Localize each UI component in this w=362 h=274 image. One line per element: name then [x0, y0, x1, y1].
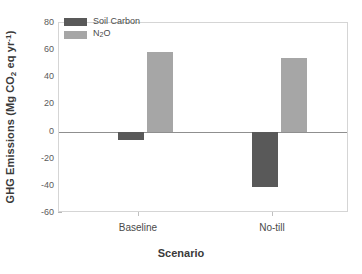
- bar-n2o-baseline: [147, 52, 173, 132]
- legend-swatch-soil-carbon: [64, 18, 87, 26]
- bar-soil-carbon-baseline: [118, 132, 144, 140]
- x-axis-tick-mark: [138, 212, 139, 216]
- y-axis-tick-mark: [58, 212, 62, 213]
- x-axis-tick-label-no-till: No-till: [259, 222, 285, 233]
- zero-baseline: [59, 132, 347, 133]
- y-axis-tick-label: -20: [26, 153, 54, 163]
- y-axis-tick-label: 40: [26, 71, 54, 81]
- y-axis-tick-label: 60: [26, 44, 54, 54]
- x-axis-tick-label-baseline: Baseline: [119, 222, 157, 233]
- y-axis-tick-label: 20: [26, 98, 54, 108]
- legend-label-soil-carbon: Soil Carbon: [93, 17, 140, 26]
- bar-soil-carbon-no-till: [252, 132, 278, 187]
- y-axis-tick-label: 80: [26, 17, 54, 27]
- y-axis-title-text: GHG Emissions (Mg CO: [4, 76, 16, 203]
- y-axis-tick-labels: 806040200-20-40-60: [24, 0, 54, 274]
- legend-item-soil-carbon: Soil Carbon: [64, 17, 140, 26]
- y-axis-tick-label: -40: [26, 180, 54, 190]
- x-axis-tick-mark: [272, 212, 273, 216]
- y-axis-title: GHG Emissions (Mg CO2 eq yr-1): [0, 22, 22, 212]
- y-axis-tick-label: -60: [26, 207, 54, 217]
- y-axis-title-superscript: -1: [4, 34, 13, 41]
- y-axis-title-post: ): [4, 31, 16, 35]
- y-axis-tick-label: 0: [26, 126, 54, 136]
- x-axis-title: Scenario: [0, 247, 362, 259]
- legend-swatch-n2o: [64, 31, 87, 39]
- chart-figure: GHG Emissions (Mg CO2 eq yr-1) 806040200…: [0, 0, 362, 274]
- legend-item-n2o: N2O: [64, 30, 140, 39]
- plot-area: [58, 22, 348, 212]
- y-axis-title-subscript: 2: [9, 72, 18, 77]
- chart-legend: Soil Carbon N2O: [64, 17, 140, 39]
- y-axis-title-mid: eq yr: [4, 42, 16, 72]
- legend-label-n2o: N2O: [93, 29, 110, 39]
- bar-n2o-no-till: [281, 58, 307, 132]
